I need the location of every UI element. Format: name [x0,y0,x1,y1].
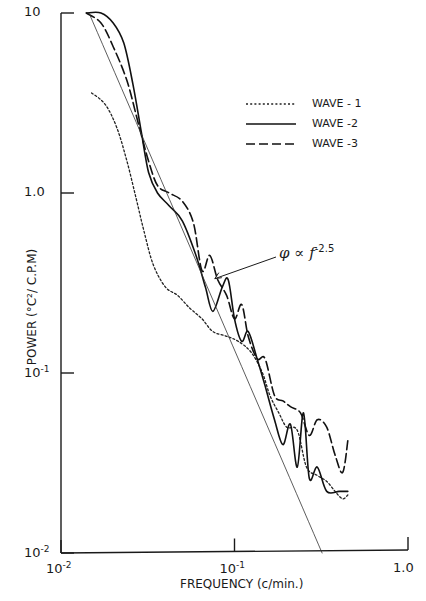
x-tick-label: 10-2 [46,560,72,576]
legend-label: WAVE -2 [312,117,358,130]
series-line [89,13,322,553]
data-series [86,12,347,553]
y-tick-label: 1.0 [24,184,45,199]
legend-label: WAVE -3 [312,137,358,150]
y-tick-label: 10 [24,4,41,19]
power-spectrum-chart [0,0,426,601]
annotation-arrow-line [215,257,276,279]
annotation-exponent: -2.5 [315,243,335,254]
x-tick-label: 1.0 [393,560,414,575]
power-law-annotation: φ ∝ f-2.5 [279,243,334,262]
annotation-arrow [215,257,276,279]
x-axis-title: FREQUENCY (c/min.) [180,577,303,591]
x-tick-label: 10-1 [220,560,246,576]
y-tick-label: 10-2 [24,544,50,560]
y-axis-title: POWER (°C²/ C.P.M) [25,227,39,387]
axes [61,13,408,553]
legend [246,104,296,144]
annotation-text: φ ∝ f [279,244,315,262]
legend-label: WAVE - 1 [312,97,362,110]
